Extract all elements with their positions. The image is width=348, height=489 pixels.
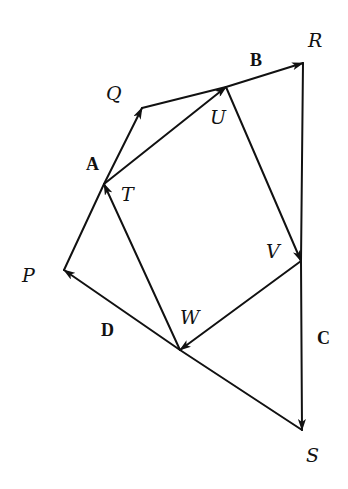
segment-pt (64, 184, 104, 270)
point-label-q: Q (106, 82, 122, 104)
segment-rv (301, 63, 303, 261)
point-labels: PQRSTUVW (21, 29, 322, 466)
vector-label-a: A (86, 154, 99, 174)
vector-uv-arrow (226, 87, 301, 261)
vector-tq-arrow (104, 108, 142, 184)
point-label-t: T (121, 183, 135, 205)
point-label-r: R (307, 29, 322, 51)
point-label-p: P (21, 264, 36, 286)
point-label-v: V (266, 240, 282, 262)
vector-label-d: D (101, 320, 114, 340)
vector-wt-arrow (104, 184, 180, 350)
vector-label-c: C (317, 328, 330, 348)
point-label-w: W (180, 306, 201, 328)
vector-quadrilateral-diagram: PQRSTUVW ABCD (0, 0, 348, 489)
vector-ur-arrow (226, 63, 303, 87)
point-label-u: U (210, 106, 227, 128)
vector-vs-arrow (301, 261, 302, 430)
point-label-s: S (306, 444, 319, 466)
segment-sw (180, 350, 302, 430)
vector-label-b: B (250, 50, 262, 70)
